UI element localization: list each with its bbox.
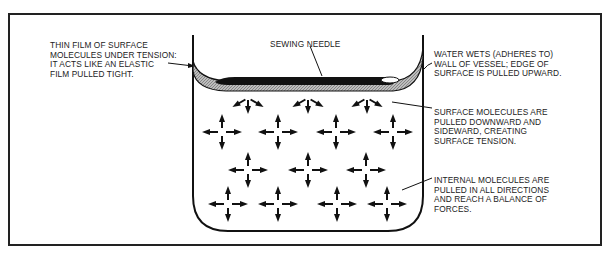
needle-label: SEWING NEEDLE: [270, 40, 340, 50]
wall-label: WATER WETS (ADHERES TO) WALL OF VESSEL; …: [434, 50, 562, 79]
surface-molecules: [231, 97, 384, 114]
leader-needle: [310, 46, 322, 76]
leader-internal: [402, 178, 432, 190]
surface-molecules-label: SURFACE MOLECULES ARE PULLED DOWNWARD AN…: [434, 108, 548, 146]
sewing-needle: [215, 77, 399, 85]
internal-molecules: [202, 114, 413, 222]
film-label: THIN FILM OF SURFACE MOLECULES UNDER TEN…: [50, 41, 177, 79]
leader-surface: [392, 102, 432, 108]
internal-molecules-label: INTERNAL MOLECULES ARE PULLED IN ALL DIR…: [434, 176, 549, 214]
leader-wall: [423, 63, 432, 70]
